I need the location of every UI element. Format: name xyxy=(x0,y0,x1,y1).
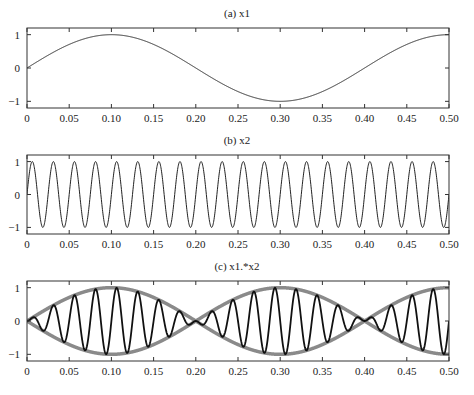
x-tick-label: 0.20 xyxy=(186,365,206,377)
x-tick-label: 0.05 xyxy=(60,238,80,250)
x-tick-label: 0.20 xyxy=(186,112,206,124)
x-tick-label: 0.15 xyxy=(144,365,164,377)
axes-frame xyxy=(27,28,449,108)
chart-figure: 00.050.100.150.200.250.300.350.400.450.5… xyxy=(0,0,474,395)
x-tick-label: 0.30 xyxy=(271,112,291,124)
x-tick-label: 0.50 xyxy=(439,112,459,124)
y-tick-label: 1 xyxy=(15,156,21,168)
x-tick-label: 0 xyxy=(24,238,30,250)
x-tick-label: 0 xyxy=(24,112,30,124)
panel-b-x2: 00.050.100.150.200.250.300.350.400.450.5… xyxy=(8,155,459,250)
x-tick-label: 0.40 xyxy=(355,365,375,377)
x-tick-label: 0.50 xyxy=(439,238,459,250)
x-tick-label: 0.05 xyxy=(60,112,80,124)
y-tick-label: 1 xyxy=(15,29,21,41)
x-tick-label: 0.30 xyxy=(271,238,291,250)
x-tick-label: 0.50 xyxy=(439,365,459,377)
x-tick-label: 0.35 xyxy=(313,112,333,124)
x-tick-label: 0.15 xyxy=(144,112,164,124)
series-line xyxy=(27,35,449,102)
y-tick-label: −1 xyxy=(8,95,20,107)
y-tick-label: 0 xyxy=(15,189,21,201)
x-tick-label: 0.20 xyxy=(186,238,206,250)
x-tick-label: 0.15 xyxy=(144,238,164,250)
x-tick-label: 0 xyxy=(24,365,30,377)
x-tick-label: 0.25 xyxy=(228,112,248,124)
panel-a-x1: 00.050.100.150.200.250.300.350.400.450.5… xyxy=(8,28,459,124)
x-tick-label: 0.45 xyxy=(397,112,417,124)
x-tick-label: 0.10 xyxy=(102,365,122,377)
x-tick-label: 0.05 xyxy=(60,365,80,377)
x-tick-label: 0.30 xyxy=(271,365,291,377)
y-tick-label: 0 xyxy=(15,62,21,74)
x-tick-label: 0.25 xyxy=(228,365,248,377)
series-line xyxy=(27,162,449,228)
y-tick-label: 0 xyxy=(15,315,21,327)
x-tick-label: 0.35 xyxy=(313,238,333,250)
x-tick-label: 0.40 xyxy=(355,112,375,124)
y-tick-label: 1 xyxy=(15,282,21,294)
y-tick-label: −1 xyxy=(8,348,20,360)
x-tick-label: 0.40 xyxy=(355,238,375,250)
x-tick-label: 0.45 xyxy=(397,365,417,377)
x-tick-label: 0.10 xyxy=(102,238,122,250)
x-tick-label: 0.10 xyxy=(102,112,122,124)
x-tick-label: 0.45 xyxy=(397,238,417,250)
x-tick-label: 0.35 xyxy=(313,365,333,377)
panel-c-product: 00.050.100.150.200.250.300.350.400.450.5… xyxy=(8,281,459,377)
y-tick-label: −1 xyxy=(8,221,20,233)
x-tick-label: 0.25 xyxy=(228,238,248,250)
